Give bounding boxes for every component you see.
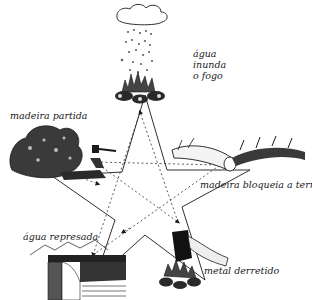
label-line: água: [193, 48, 226, 59]
label-metal-derretido: metal derretido: [204, 265, 279, 276]
pentagram-diagram: água inunda o fogo madeira partida madei…: [0, 0, 312, 300]
bush-with-axe-icon: [10, 126, 116, 180]
label-line: inunda: [193, 59, 226, 70]
label-madeira-partida: madeira partida: [10, 110, 88, 121]
label-line: o fogo: [193, 70, 226, 81]
fire-icon: [115, 72, 165, 104]
dam-icon: [30, 240, 126, 300]
diagram-artwork: [0, 0, 312, 300]
fallen-log-icon: [172, 136, 305, 171]
label-madeira-bloqueia-a-terra: madeira bloqueia a terra: [200, 179, 312, 190]
label-agua-represada: água represada: [23, 231, 98, 242]
molten-metal-icon: [159, 230, 228, 289]
rain-cloud-icon: [117, 4, 167, 73]
label-agua-inunda-o-fogo: água inunda o fogo: [193, 48, 226, 81]
